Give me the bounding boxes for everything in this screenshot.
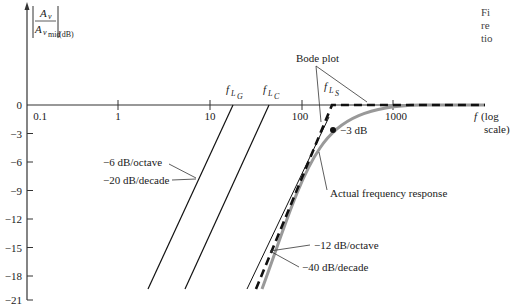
minus3db-point xyxy=(330,127,336,133)
caption-line: re xyxy=(481,19,493,32)
svg-text:(dB): (dB) xyxy=(59,30,74,39)
actual-response-pointer xyxy=(319,152,327,190)
twenty-db-decade-label: −20 dB/decade xyxy=(103,174,169,186)
six-db-pointer xyxy=(169,164,196,178)
svg-text:S: S xyxy=(335,89,339,98)
y-axis-arrow-icon xyxy=(25,2,30,10)
figure-caption-fragment: Fi re tio xyxy=(481,6,493,45)
f-lg-asymptote xyxy=(148,105,233,289)
svg-text:0.1: 0.1 xyxy=(33,110,47,122)
caption-line: Fi xyxy=(481,6,493,19)
minus3db-label: −3 dB xyxy=(340,124,367,136)
caption-line: tio xyxy=(481,32,493,45)
y-tick-labels: 0 −3 −6 −9 −12 −15 −18 −21 xyxy=(5,99,23,305)
svg-text:L: L xyxy=(230,89,236,98)
svg-text:0: 0 xyxy=(17,99,23,111)
svg-text:v: v xyxy=(48,12,52,21)
svg-text:−21: −21 xyxy=(5,294,22,305)
svg-text:1000: 1000 xyxy=(385,110,408,122)
svg-text:−3: −3 xyxy=(10,128,22,140)
svg-text:A: A xyxy=(39,7,47,19)
svg-text:−15: −15 xyxy=(5,242,23,254)
forty-db-decade-label: −40 dB/decade xyxy=(302,261,368,273)
svg-text:f: f xyxy=(474,110,479,122)
svg-text:−18: −18 xyxy=(5,270,23,282)
svg-text:L: L xyxy=(328,86,334,95)
y-axis-title: A v A v mid (dB) xyxy=(33,6,74,39)
svg-text:100: 100 xyxy=(292,110,309,122)
six-db-octave-label: −6 dB/octave xyxy=(103,156,162,168)
x-axis-title: f (log scale) xyxy=(474,110,510,136)
twelve-db-octave-label: −12 dB/octave xyxy=(314,239,379,251)
svg-text:L: L xyxy=(267,89,273,98)
label-f-ls: f L S xyxy=(324,80,339,98)
svg-text:1: 1 xyxy=(115,110,121,122)
svg-text:−9: −9 xyxy=(10,185,22,197)
svg-text:(log: (log xyxy=(481,110,499,123)
svg-text:−6: −6 xyxy=(10,156,22,168)
label-f-lg: f L G xyxy=(226,83,243,101)
svg-text:10: 10 xyxy=(205,110,217,122)
bode-pointer-left xyxy=(316,66,321,122)
svg-text:v: v xyxy=(43,28,47,37)
y-ticks xyxy=(27,134,33,301)
f-lc-asymptote xyxy=(185,105,269,289)
svg-text:C: C xyxy=(274,92,280,101)
svg-text:A: A xyxy=(34,23,42,35)
svg-text:−12: −12 xyxy=(5,213,22,225)
label-f-lc: f L C xyxy=(263,83,280,101)
svg-text:scale): scale) xyxy=(484,123,510,136)
svg-text:G: G xyxy=(237,92,243,101)
twenty-db-pointer xyxy=(172,179,196,180)
corner-freq-labels: f L G f L C f L S xyxy=(226,80,339,101)
actual-response-label: Actual frequency response xyxy=(330,187,447,199)
bode-chart: 0 −3 −6 −9 −12 −15 −18 −21 0.1 1 10 100 … xyxy=(0,0,511,305)
bode-plot-label: Bode plot xyxy=(296,52,339,64)
